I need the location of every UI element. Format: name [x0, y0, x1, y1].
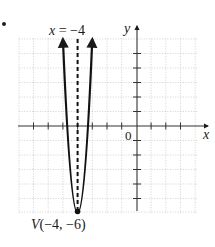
vertex-label: V(−4, −6): [31, 218, 86, 232]
vertex-point: [75, 209, 81, 215]
origin-label: 0: [125, 129, 132, 142]
y-axis: [133, 26, 141, 211]
bullet-marker: [2, 22, 6, 26]
x-axis: [18, 123, 208, 130]
graph-canvas: [0, 0, 215, 247]
x-axis-label: x: [203, 128, 209, 142]
axis-of-symmetry-label: x = −4: [49, 24, 85, 38]
parabola-graph: x = −4 y x 0 V(−4, −6): [0, 0, 215, 247]
y-axis-label: y: [124, 22, 130, 36]
